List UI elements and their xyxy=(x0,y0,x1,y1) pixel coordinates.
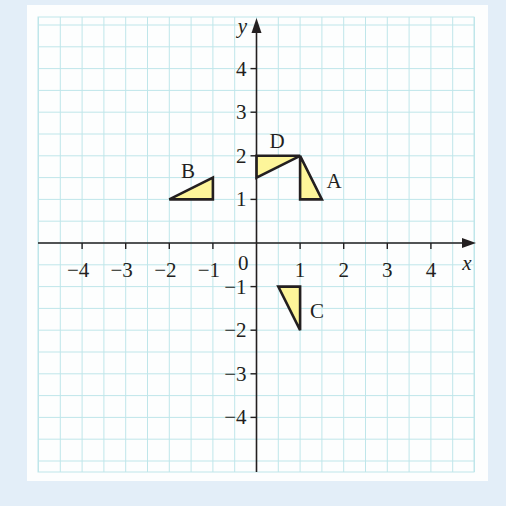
shape-label-a: A xyxy=(326,169,342,193)
x-tick-label: −3 xyxy=(111,258,133,282)
x-tick-label: 4 xyxy=(426,258,437,282)
y-tick-label: −2 xyxy=(224,318,246,342)
x-tick-label: 2 xyxy=(338,258,349,282)
y-axis-label: y xyxy=(236,14,248,38)
y-tick-label: −1 xyxy=(224,275,246,299)
x-tick-label: −2 xyxy=(154,258,176,282)
shape-label-d: D xyxy=(269,129,284,153)
x-tick-label: −1 xyxy=(198,258,220,282)
y-tick-label: 3 xyxy=(236,100,247,124)
y-tick-label: −4 xyxy=(224,405,247,429)
y-tick-label: −3 xyxy=(224,362,246,386)
x-tick-label: 3 xyxy=(382,258,393,282)
x-tick-label: 1 xyxy=(295,258,306,282)
coordinate-plane: −4−3−2−112344321−1−2−3−40xyABCD xyxy=(0,0,506,506)
y-tick-label: 2 xyxy=(236,144,247,168)
y-tick-label: 1 xyxy=(236,187,247,211)
shape-label-c: C xyxy=(310,299,324,323)
origin-label: 0 xyxy=(238,251,249,275)
y-tick-label: 4 xyxy=(236,57,247,81)
x-axis-label: x xyxy=(461,251,472,275)
shape-label-b: B xyxy=(181,159,195,183)
x-tick-label: −4 xyxy=(67,258,90,282)
